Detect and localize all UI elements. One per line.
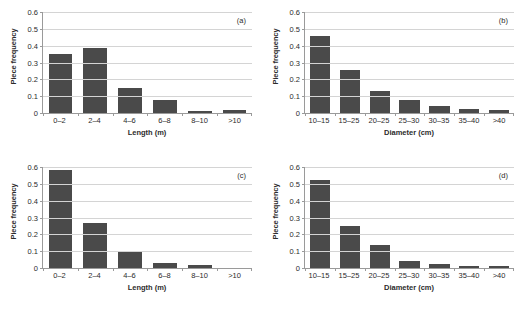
x-tick-label: 15–25 (334, 271, 364, 280)
bar (188, 111, 212, 113)
x-tick-label: 2–4 (77, 271, 112, 280)
y-tick-mark (40, 29, 43, 30)
y-tick-label: 0.5 (28, 24, 38, 33)
x-tick-label: 35–40 (454, 271, 484, 280)
panel-label: (c) (237, 171, 246, 180)
bar (153, 100, 177, 113)
y-tick-label: 0.1 (290, 92, 300, 101)
plot-area (304, 12, 514, 114)
y-tick-label: 0.4 (28, 196, 38, 205)
y-tick-label: 0.4 (290, 41, 300, 50)
bar (223, 110, 247, 113)
bar (489, 266, 509, 268)
x-tick-label: 6–8 (147, 271, 182, 280)
x-tick-labels: 10–1515–2520–2525–3030–3535–40>40 (304, 116, 514, 125)
bar (188, 265, 212, 268)
y-tick-label: 0.3 (290, 213, 300, 222)
y-tick-labels: 00.10.20.30.40.50.6 (18, 167, 40, 268)
y-tick-mark (302, 234, 305, 235)
y-tick-label: 0.2 (28, 75, 38, 84)
gridline (305, 184, 514, 185)
x-tick-label: 10–15 (304, 271, 334, 280)
x-tick-labels: 0–22–44–66–88–10>10 (42, 271, 252, 280)
gridline (305, 79, 514, 80)
x-tick-label: >10 (217, 116, 252, 125)
y-tick-labels: 00.10.20.30.40.50.6 (280, 167, 302, 268)
bar (118, 88, 142, 113)
y-tick-mark (302, 113, 305, 114)
y-tick-label: 0.5 (28, 179, 38, 188)
bar (429, 264, 449, 268)
y-tick-label: 0 (296, 264, 300, 273)
x-tick-label: 30–35 (424, 271, 454, 280)
y-tick-mark (40, 96, 43, 97)
y-tick-labels: 00.10.20.30.40.50.6 (18, 12, 40, 113)
y-tick-mark (302, 167, 305, 168)
y-tick-mark (40, 184, 43, 185)
y-tick-mark (40, 12, 43, 13)
bar (83, 223, 107, 268)
gridline (43, 46, 252, 47)
x-axis-title: Diameter (cm) (304, 283, 514, 292)
y-tick-label: 0 (34, 264, 38, 273)
y-tick-label: 0.3 (28, 213, 38, 222)
panel-label: (a) (237, 16, 246, 25)
y-tick-label: 0.3 (290, 58, 300, 67)
y-tick-label: 0.6 (28, 163, 38, 172)
gridline (305, 234, 514, 235)
x-tick-label: 15–25 (334, 116, 364, 125)
chart-panel-b: Piece frequency 00.10.20.30.40.50.6 10–1… (262, 0, 524, 155)
gridline (43, 63, 252, 64)
y-tick-label: 0.2 (290, 75, 300, 84)
panel-label: (b) (499, 16, 508, 25)
figure-panel-grid: Piece frequency 00.10.20.30.40.50.6 0–22… (0, 0, 524, 310)
y-tick-label: 0.4 (28, 41, 38, 50)
gridline (43, 167, 252, 168)
y-tick-label: 0.2 (290, 230, 300, 239)
x-axis-title: Diameter (cm) (304, 128, 514, 137)
chart-panel-c: Piece frequency 00.10.20.30.40.50.6 0–22… (0, 155, 262, 310)
bar (399, 261, 419, 268)
x-tick-label: 0–2 (42, 271, 77, 280)
x-tick-label: >10 (217, 271, 252, 280)
x-tick-label: >40 (484, 116, 514, 125)
y-tick-mark (302, 79, 305, 80)
x-tick-label: 20–25 (364, 116, 394, 125)
y-tick-label: 0.1 (28, 92, 38, 101)
bar (310, 36, 330, 113)
x-tick-label: 25–30 (394, 271, 424, 280)
gridline (43, 201, 252, 202)
bar (153, 263, 177, 268)
bar (49, 170, 73, 268)
y-tick-label: 0.4 (290, 196, 300, 205)
x-tick-labels: 0–22–44–66–88–10>10 (42, 116, 252, 125)
gridline (305, 201, 514, 202)
y-tick-label: 0.1 (28, 247, 38, 256)
y-tick-mark (302, 251, 305, 252)
bar (489, 110, 509, 113)
x-tick-label: 30–35 (424, 116, 454, 125)
gridline (43, 12, 252, 13)
gridline (43, 79, 252, 80)
gridline (43, 218, 252, 219)
bar (370, 91, 390, 113)
y-tick-mark (40, 234, 43, 235)
x-tick-label: 8–10 (182, 271, 217, 280)
y-tick-label: 0.3 (28, 58, 38, 67)
plot-area (42, 167, 252, 269)
bar (459, 109, 479, 113)
bar (310, 180, 330, 268)
gridline (305, 251, 514, 252)
bar (83, 48, 107, 113)
x-tick-label: 20–25 (364, 271, 394, 280)
x-tick-label: 6–8 (147, 116, 182, 125)
bar (340, 226, 360, 268)
bar (459, 266, 479, 268)
x-tick-label: 4–6 (112, 116, 147, 125)
x-axis-title: Length (m) (42, 283, 252, 292)
y-tick-mark (302, 201, 305, 202)
x-tick-label: >40 (484, 271, 514, 280)
bar (429, 106, 449, 113)
gridline (305, 12, 514, 13)
y-tick-label: 0 (296, 109, 300, 118)
